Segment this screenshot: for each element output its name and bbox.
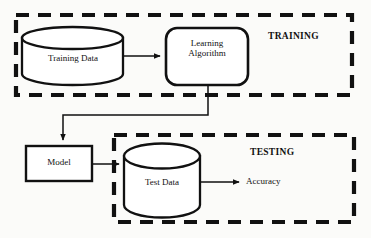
accuracy-label: Accuracy xyxy=(246,176,280,186)
test-data-label: Test Data xyxy=(128,177,196,187)
learning-algorithm-label: Learning Algorithm xyxy=(172,38,242,59)
training-data-label: Training Data xyxy=(33,53,113,63)
learning-algorithm-label-line1: Learning xyxy=(172,38,242,48)
training-region-label: TRAINING xyxy=(268,31,319,41)
learning-algorithm-label-line2: Algorithm xyxy=(172,48,242,58)
diagram-canvas: TRAINING TESTING Training Data Learning … xyxy=(0,0,371,238)
testing-region-label: TESTING xyxy=(250,147,294,157)
model-label: Model xyxy=(31,157,87,167)
